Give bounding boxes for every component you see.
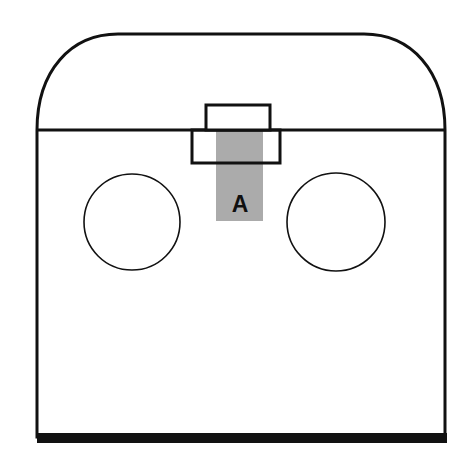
technical-drawing-figure: A (0, 0, 475, 468)
drawing-canvas: A (0, 0, 475, 468)
right-port-circle (287, 173, 385, 271)
base-support-bar (37, 433, 447, 443)
upper-nozzle-rectangle (206, 105, 270, 130)
region-label-a: A (232, 191, 249, 217)
left-port-circle (84, 174, 180, 270)
